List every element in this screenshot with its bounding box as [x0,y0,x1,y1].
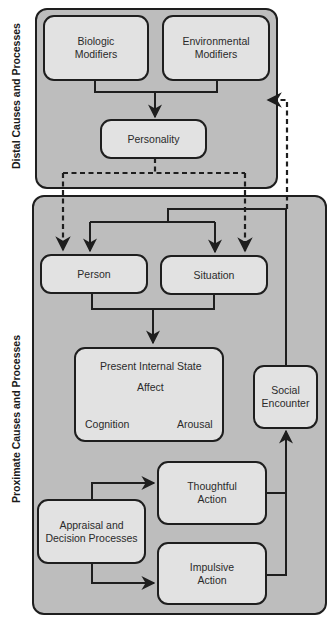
affect-label: Affect [137,381,164,393]
person-node: Person [40,254,148,294]
social-encounter-node: Social Encounter [253,365,318,429]
personality-node: Personality [100,119,207,159]
arrow-to-social-encounter [266,431,286,575]
thoughtful-action-node: Thoughtful Action [157,461,267,525]
biologic-modifiers-node: Biologic Modifiers [43,15,149,81]
cognition-label: Cognition [85,418,129,430]
dashed-arrow-to-distal [268,100,287,209]
appraisal-decision-node: Appraisal and Decision Processes [37,499,146,564]
person-situation-merge-line [92,293,214,309]
arrow-to-thoughtful [92,483,154,499]
arousal-label: Arousal [177,418,213,430]
present-state-title: Present Internal State [100,360,202,372]
arrow-to-impulsive [92,563,154,583]
impulsive-action-node: Impulsive Action [157,542,267,605]
environmental-modifiers-node: Environmental Modifiers [162,15,270,81]
modifiers-merge-line [95,80,217,92]
situation-node: Situation [160,255,268,295]
